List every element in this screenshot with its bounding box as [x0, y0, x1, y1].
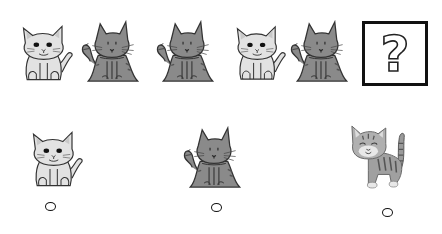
- light-cat-icon: [232, 22, 286, 84]
- sequence-item-light-cat: White cat: [18, 22, 73, 84]
- option-2-radio[interactable]: [211, 203, 222, 212]
- sequence-item-gray-cat: Gray cat: [80, 20, 142, 85]
- sequence-item-gray-cat: Gray cat: [289, 20, 351, 85]
- sequence-item-light-cat: White cat: [232, 22, 286, 84]
- question-mark-icon: ?: [380, 29, 409, 79]
- option-light-cat[interactable]: White cat: [28, 128, 83, 190]
- option-tabby-kitten[interactable]: Tabby kitten: [349, 124, 409, 192]
- tabby-kitten-icon: [349, 124, 409, 192]
- gray-cat-icon: [80, 20, 142, 85]
- missing-item-box: ?: [362, 21, 428, 86]
- gray-cat-icon: [182, 126, 244, 191]
- gray-cat-icon: [155, 20, 217, 85]
- option-3-radio[interactable]: [382, 208, 393, 217]
- sequence-item-gray-cat: Gray cat: [155, 20, 217, 85]
- light-cat-icon: [18, 22, 73, 84]
- option-gray-cat[interactable]: Gray cat: [182, 126, 244, 191]
- gray-cat-icon: [289, 20, 351, 85]
- light-cat-icon: [28, 128, 83, 190]
- option-1-radio[interactable]: [45, 202, 56, 211]
- puzzle-title: What comes next in the pattern?: [0, 0, 1, 1]
